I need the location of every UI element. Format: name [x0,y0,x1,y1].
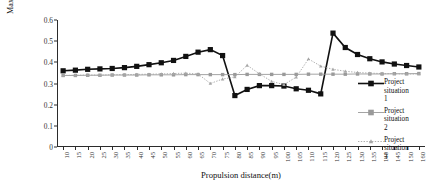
x-axis-tick-label: 90 [259,152,266,159]
chart-legend: Projectsituation1Projectsituation2Projec… [358,78,444,164]
x-axis-tick-label: 85 [247,152,254,159]
y-axis-label: Maximum value of the first principal str… [6,0,24,18]
x-axis-tick-label: 105 [296,152,303,162]
y-axis-tick-mark [54,125,57,126]
x-axis-tick-mark [63,147,64,150]
x-axis-tick-label: 10 [63,152,70,159]
x-axis-tick-label: 110 [308,152,315,162]
y-axis-label-line-2: stress（MPa） [16,0,26,18]
x-axis-tick-label: 35 [124,152,131,159]
x-axis-tick-mark [235,147,236,150]
x-axis-tick-mark [333,147,334,150]
x-axis-tick-mark [223,147,224,150]
x-axis-tick-mark [112,147,113,150]
x-axis-tick-mark [75,147,76,150]
chart-figure: Maximum value of the first principal str… [0,0,446,195]
x-axis-tick-mark [124,147,125,150]
y-axis-tick-mark [54,104,57,105]
legend-item[interactable]: Projectsituation2 [358,107,444,133]
x-axis-tick-mark [284,147,285,150]
x-axis-tick-mark [137,147,138,150]
y-axis-tick-mark [54,83,57,84]
x-axis-tick-mark [308,147,309,150]
x-axis-tick-label: 20 [87,152,94,159]
x-axis-tick-mark [149,147,150,150]
x-axis-tick-mark [247,147,248,150]
x-axis-tick-mark [259,147,260,150]
y-axis-tick-mark [54,147,57,148]
legend-label-line: situation [384,87,444,96]
legend-label-line: 1 [384,95,444,104]
x-axis-tick-label: 45 [149,152,156,159]
legend-label-line: Project [384,78,444,87]
legend-label-line: 2 [384,124,444,133]
legend-label: Projectsituation3 [384,136,444,162]
legend-label-line: Project [384,136,444,145]
legend-label: Projectsituation1 [384,78,444,104]
x-axis-tick-label: 115 [320,152,327,162]
x-axis-tick-label: 80 [234,152,241,159]
x-axis-tick-mark [186,147,187,150]
x-axis-tick-mark [345,147,346,150]
y-axis-tick-mark [54,62,57,63]
x-axis-tick-label: 100 [283,152,290,162]
legend-label: Projectsituation2 [384,107,444,133]
x-axis-tick-mark [296,147,297,150]
x-axis-tick-mark [161,147,162,150]
y-axis-tick-mark [54,41,57,42]
x-axis-tick-label: 125 [345,152,352,162]
x-axis-tick-label: 75 [222,152,229,159]
legend-label-line: situation [384,144,444,153]
y-axis-label-line-1: Maximum value of the first principal [6,0,16,18]
x-axis-tick-label: 120 [333,152,340,162]
series-canvas [57,20,357,170]
legend-label-line: 3 [384,153,444,162]
legend-label-line: Project [384,107,444,116]
x-axis-tick-label: 65 [198,152,205,159]
legend-item[interactable]: Projectsituation3 [358,136,444,162]
x-axis-tick-mark [210,147,211,150]
x-axis-tick-label: 25 [99,152,106,159]
x-axis-tick-label: 50 [161,152,168,159]
legend-marker-icon [358,108,384,117]
x-axis-tick-label: 55 [173,152,180,159]
y-axis-tick-mark [54,20,57,21]
x-axis-tick-label: 95 [271,152,278,159]
x-axis-tick-label: 40 [136,152,143,159]
x-axis-tick-label: 30 [112,152,119,159]
x-axis-tick-mark [272,147,273,150]
x-axis-tick-label: 70 [210,152,217,159]
x-axis-tick-mark [100,147,101,150]
x-axis-tick-label: 15 [75,152,82,159]
x-axis-tick-mark [174,147,175,150]
legend-marker-icon [358,79,384,88]
legend-marker-icon [358,137,384,146]
x-axis-tick-label: 60 [185,152,192,159]
x-axis-tick-mark [198,147,199,150]
legend-item[interactable]: Projectsituation1 [358,78,444,104]
x-axis-label: Propulsion distance(m) [57,170,425,180]
legend-label-line: situation [384,115,444,124]
x-axis-tick-mark [321,147,322,150]
x-axis-tick-mark [88,147,89,150]
